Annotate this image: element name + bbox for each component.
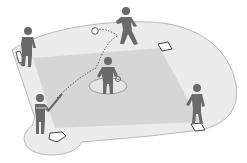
baseball-field-illustration xyxy=(0,0,247,163)
baseball xyxy=(92,28,99,35)
field-svg xyxy=(0,0,247,163)
